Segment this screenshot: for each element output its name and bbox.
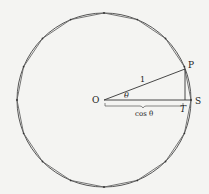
vertex-dot xyxy=(42,38,44,40)
segment-op xyxy=(104,69,185,100)
label-radius: 1 xyxy=(140,75,145,84)
vertex-dot xyxy=(42,161,44,163)
vertex-dot xyxy=(70,179,72,181)
label-t: T xyxy=(180,104,187,114)
diagram: O P S T 1 θ cos θ xyxy=(0,0,209,194)
vertex-dot xyxy=(165,161,167,163)
label-s: S xyxy=(195,96,201,106)
vertex-dot xyxy=(103,12,105,14)
label-cos-theta: cos θ xyxy=(135,110,153,118)
vertex-dot xyxy=(183,132,185,134)
vertex-dot xyxy=(23,66,25,68)
label-p: P xyxy=(188,60,194,70)
vertex-dot xyxy=(103,186,105,188)
label-theta: θ xyxy=(124,91,129,100)
label-o: O xyxy=(92,95,99,105)
vertex-dot xyxy=(136,179,138,181)
vertex-dot xyxy=(165,38,167,40)
circle-diagram: O P S T 1 θ cos θ xyxy=(0,0,209,194)
vertex-dot xyxy=(70,19,72,21)
brace-cos xyxy=(105,103,183,108)
vertex-dot xyxy=(23,132,25,134)
vertex-dot xyxy=(136,19,138,21)
vertex-dot xyxy=(183,66,185,68)
vertex-dot xyxy=(16,99,18,101)
